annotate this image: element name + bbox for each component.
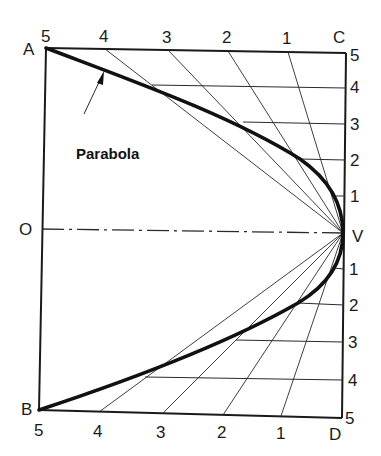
right-tick-labels-lower: 1 2 3 4 5 bbox=[345, 260, 358, 428]
right-tick-upper-2: 2 bbox=[350, 151, 359, 170]
h-line-lower-4 bbox=[145, 377, 343, 380]
bottom-tick-4: 4 bbox=[93, 422, 102, 441]
h-line-lower-2 bbox=[298, 303, 344, 305]
right-tick-lower-3: 3 bbox=[348, 333, 357, 352]
radial-bottom-4 bbox=[99, 233, 343, 412]
right-tick-lower-1: 1 bbox=[349, 260, 358, 279]
radial-top-2 bbox=[228, 51, 343, 233]
top-tick-labels: 5 4 3 2 1 bbox=[41, 27, 291, 48]
frame-top-edge bbox=[46, 48, 346, 53]
right-tick-upper-1: 1 bbox=[350, 187, 359, 206]
top-tick-5: 5 bbox=[41, 27, 50, 46]
point-label-v: V bbox=[352, 227, 364, 246]
right-tick-upper-5: 5 bbox=[350, 46, 359, 65]
right-tick-lower-2: 2 bbox=[349, 296, 358, 315]
top-tick-2: 2 bbox=[222, 28, 231, 47]
frame-bottom-edge bbox=[39, 410, 342, 418]
radial-bottom-2 bbox=[223, 233, 343, 415]
top-tick-4: 4 bbox=[99, 27, 108, 46]
point-label-d: D bbox=[329, 425, 341, 444]
radial-bottom-1 bbox=[281, 233, 343, 416]
right-tick-labels-upper: 5 4 3 2 1 bbox=[350, 46, 359, 206]
h-line-upper-4 bbox=[152, 85, 346, 88]
arrow-head-icon bbox=[97, 71, 104, 85]
bottom-tick-labels: 5 4 3 2 1 bbox=[34, 421, 285, 443]
right-tick-upper-3: 3 bbox=[350, 115, 359, 134]
parabola-diagram: Parabola A C O V B D 5 4 3 2 1 5 4 3 2 1… bbox=[0, 0, 381, 456]
bottom-tick-2: 2 bbox=[217, 423, 226, 442]
bottom-tick-5: 5 bbox=[34, 421, 43, 440]
right-tick-upper-4: 4 bbox=[350, 78, 359, 97]
point-label-a: A bbox=[23, 40, 35, 59]
radial-top-3 bbox=[168, 50, 343, 233]
point-label-c: C bbox=[333, 28, 345, 47]
top-tick-3: 3 bbox=[162, 28, 171, 47]
bottom-tick-1: 1 bbox=[276, 424, 285, 443]
right-tick-lower-5: 5 bbox=[345, 409, 354, 428]
right-tick-lower-4: 4 bbox=[348, 371, 357, 390]
bottom-tick-3: 3 bbox=[156, 423, 165, 442]
radial-top-4 bbox=[105, 49, 343, 233]
h-line-upper-2 bbox=[300, 159, 345, 160]
parabola-pointer-arrow bbox=[84, 71, 104, 114]
axis-line-ov bbox=[42, 229, 343, 233]
point-label-o: O bbox=[19, 220, 32, 239]
point-label-b: B bbox=[21, 400, 32, 419]
h-line-lower-3 bbox=[236, 340, 343, 342]
parabola-caption: Parabola bbox=[76, 145, 140, 162]
h-line-upper-3 bbox=[243, 122, 345, 124]
radial-bottom-3 bbox=[162, 233, 343, 414]
radial-top-1 bbox=[288, 52, 343, 233]
top-tick-1: 1 bbox=[282, 29, 291, 48]
